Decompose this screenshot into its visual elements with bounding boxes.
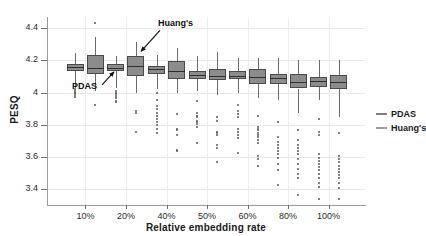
legend-item-pdas: PDAS [376, 104, 426, 118]
huangs-annotation-arrow [0, 0, 426, 236]
legend-label-huangs: Huang's [391, 123, 426, 133]
legend: PDAS Huang's [376, 104, 426, 132]
legend-swatch-pdas [376, 113, 387, 115]
chart-root: 4.44.243.83.63.4 10%20%40%50%60%80%100% … [0, 0, 426, 236]
legend-swatch-huangs [376, 127, 387, 129]
legend-item-huangs: Huang's [376, 118, 426, 132]
